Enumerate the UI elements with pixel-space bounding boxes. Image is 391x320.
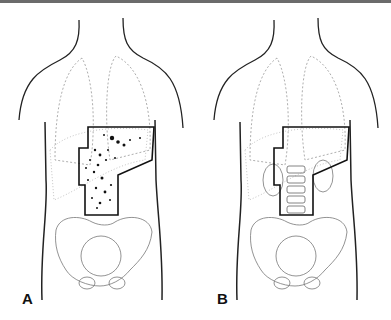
- panel-a: A: [0, 0, 196, 320]
- panel-label-a: A: [22, 290, 33, 307]
- torso-diagram-b: [195, 0, 391, 320]
- vertebral-column: [287, 166, 305, 213]
- torso-diagram-a: [0, 0, 196, 320]
- panel-b: B: [195, 0, 391, 320]
- panel-label-b: B: [217, 290, 228, 307]
- dot-markings: [85, 134, 141, 209]
